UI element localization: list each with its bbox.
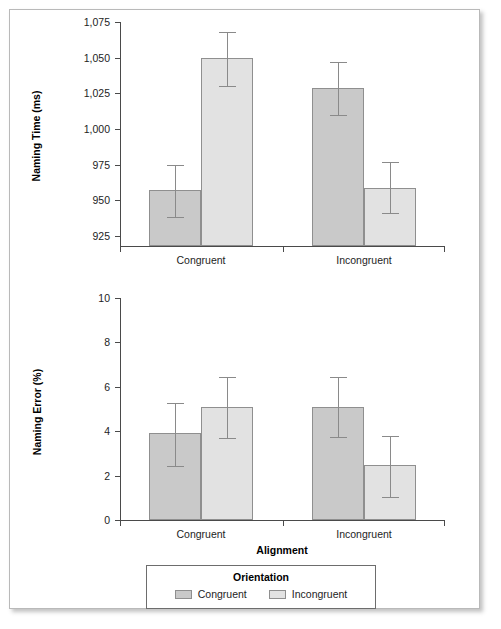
x-tick-bottom-1 xyxy=(283,521,284,526)
y-tick-bottom-3 xyxy=(115,387,120,388)
error-bar-cap xyxy=(219,86,236,87)
y-axis-line-top xyxy=(120,22,121,246)
y-tick-top-5 xyxy=(115,58,120,59)
y-tick-top-0 xyxy=(115,236,120,237)
y-tick-label-bottom-2: 4 xyxy=(104,425,110,437)
error-bar-cap xyxy=(382,162,399,163)
error-bar-cap xyxy=(382,497,399,498)
x-tick-top-0 xyxy=(120,247,121,252)
y-tick-bottom-5 xyxy=(115,298,120,299)
y-tick-label-top-3: 1,000 xyxy=(84,123,110,135)
y-tick-label-top-1: 950 xyxy=(92,194,110,206)
x-category-label-top-1: Incongruent xyxy=(336,254,391,266)
y-tick-bottom-4 xyxy=(115,342,120,343)
y-axis-title-bottom: Naming Error (%) xyxy=(31,352,43,472)
y-tick-label-bottom-4: 8 xyxy=(104,336,110,348)
y-axis-title-top: Naming Time (ms) xyxy=(30,76,42,196)
error-bar-cap xyxy=(382,213,399,214)
error-bar-cap xyxy=(330,62,347,63)
x-tick-top-1 xyxy=(283,247,284,252)
error-bar xyxy=(227,377,228,438)
legend-title: Orientation xyxy=(147,571,375,583)
x-tick-top-2 xyxy=(444,247,445,252)
error-bar-cap xyxy=(219,377,236,378)
error-bar xyxy=(390,162,391,213)
y-tick-label-bottom-5: 10 xyxy=(98,292,110,304)
x-tick-bottom-2 xyxy=(444,521,445,526)
legend-entry: Incongruent xyxy=(269,588,347,600)
error-bar-cap xyxy=(219,438,236,439)
y-tick-label-bottom-1: 2 xyxy=(104,470,110,482)
y-tick-label-top-6: 1,075 xyxy=(84,16,110,28)
y-tick-label-top-4: 1,025 xyxy=(84,87,110,99)
x-axis-title: Alignment xyxy=(256,544,307,556)
y-tick-top-4 xyxy=(115,93,120,94)
legend-items: CongruentIncongruent xyxy=(147,588,375,600)
legend: Orientation CongruentIncongruent xyxy=(146,565,376,609)
legend-label: Congruent xyxy=(198,588,247,600)
plot-area-top: 9259509751,0001,0251,0501,075 xyxy=(120,22,445,246)
chart-panel-naming-error: Naming Error (%) 0246810 Congruent Incon… xyxy=(10,288,481,556)
error-bar-cap xyxy=(167,403,184,404)
x-category-label-top-0: Congruent xyxy=(176,254,225,266)
y-tick-top-3 xyxy=(115,129,120,130)
legend-label: Incongruent xyxy=(292,588,347,600)
y-tick-label-bottom-3: 6 xyxy=(104,381,110,393)
x-tick-bottom-0 xyxy=(120,521,121,526)
error-bar-cap xyxy=(167,165,184,166)
error-bar-cap xyxy=(330,115,347,116)
y-tick-top-2 xyxy=(115,165,120,166)
legend-swatch-icon xyxy=(269,590,286,599)
y-tick-label-top-2: 975 xyxy=(92,159,110,171)
chart-panel-naming-time: Naming Time (ms) 9259509751,0001,0251,05… xyxy=(10,10,481,278)
x-category-label-bottom-1: Incongruent xyxy=(336,528,391,540)
x-category-label-bottom-0: Congruent xyxy=(176,528,225,540)
error-bar-cap xyxy=(330,377,347,378)
error-bar xyxy=(338,377,339,437)
y-tick-label-top-0: 925 xyxy=(92,230,110,242)
y-tick-top-1 xyxy=(115,200,120,201)
legend-entry: Congruent xyxy=(175,588,247,600)
y-tick-bottom-1 xyxy=(115,476,120,477)
y-axis-line-bottom xyxy=(120,298,121,520)
error-bar-cap xyxy=(167,466,184,467)
error-bar-cap xyxy=(382,436,399,437)
figure-frame: Naming Time (ms) 9259509751,0001,0251,05… xyxy=(9,9,480,609)
error-bar xyxy=(175,165,176,218)
error-bar-cap xyxy=(330,437,347,438)
error-bar-cap xyxy=(219,32,236,33)
y-tick-label-top-5: 1,050 xyxy=(84,52,110,64)
error-bar-cap xyxy=(167,217,184,218)
error-bar xyxy=(175,403,176,465)
error-bar xyxy=(338,62,339,115)
legend-swatch-icon xyxy=(175,590,192,599)
error-bar xyxy=(227,32,228,86)
y-tick-label-bottom-0: 0 xyxy=(104,514,110,526)
y-tick-top-6 xyxy=(115,22,120,23)
plot-area-bottom: 0246810 xyxy=(120,298,445,520)
y-tick-bottom-2 xyxy=(115,431,120,432)
error-bar xyxy=(390,436,391,497)
